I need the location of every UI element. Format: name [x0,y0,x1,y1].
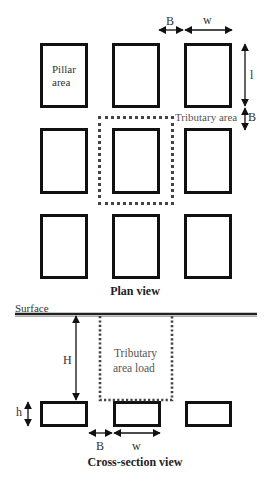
tributary-load-outline [100,316,172,400]
dimension-arrows-overlay [0,0,269,483]
surface-line [15,314,257,317]
